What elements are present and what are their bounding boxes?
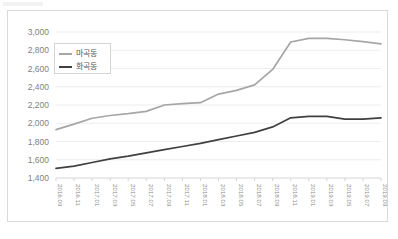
x-tick-label: 2018.11 xyxy=(292,184,299,206)
y-tick-label: 2,600 xyxy=(28,64,50,74)
x-tick-label: 2018.05 xyxy=(238,184,245,207)
y-tick-label: 2,800 xyxy=(28,45,50,55)
legend-label-hwagok: 화곡동 xyxy=(76,62,97,72)
chart-legend: 마곡동 화곡동 xyxy=(54,43,111,74)
legend-item-hwagok: 화곡동 xyxy=(59,61,107,72)
x-tick-label: 2019.01 xyxy=(310,184,317,207)
x-tick-label: 2018.01 xyxy=(202,184,209,207)
x-tick-label: 2016.09 xyxy=(57,184,64,207)
series-line xyxy=(56,116,381,168)
x-tick-label: 2019.09 xyxy=(382,184,389,207)
x-tick-label: 2017.11 xyxy=(184,184,191,206)
line-chart: 3,0002,8002,6002,4002,2002,0001,8001,600… xyxy=(0,0,398,239)
x-tick-label: 2016.11 xyxy=(75,184,82,206)
y-tick-label: 1,800 xyxy=(28,137,50,147)
x-tick-label: 2017.07 xyxy=(148,184,155,207)
chart-plot-area: 3,0002,8002,6002,4002,2002,0001,8001,600… xyxy=(0,0,398,239)
y-tick-label: 3,000 xyxy=(28,27,50,37)
x-tick-label: 2017.05 xyxy=(130,184,137,207)
x-tick-label: 2019.03 xyxy=(328,184,335,207)
x-tick-label: 2017.01 xyxy=(94,184,101,207)
y-tick-label: 1,600 xyxy=(28,155,50,165)
legend-swatch-magok xyxy=(59,53,72,55)
legend-item-magok: 마곡동 xyxy=(59,48,107,59)
x-tick-label: 2018.07 xyxy=(256,184,263,207)
y-tick-label: 2,400 xyxy=(28,82,50,92)
y-axis-tick-labels: 3,0002,8002,6002,4002,2002,0001,8001,600… xyxy=(28,27,50,183)
y-tick-label: 1,400 xyxy=(28,173,50,183)
legend-swatch-hwagok xyxy=(59,66,72,68)
x-tick-label: 2018.03 xyxy=(220,184,227,207)
y-tick-label: 2,000 xyxy=(28,118,50,128)
legend-label-magok: 마곡동 xyxy=(76,49,97,59)
x-axis-tick-labels: 2016.092016.112017.012017.032017.052017.… xyxy=(57,184,389,207)
x-tick-label: 2019.05 xyxy=(346,184,353,207)
x-tick-label: 2018.09 xyxy=(274,184,281,207)
x-tick-label: 2017.09 xyxy=(166,184,173,207)
x-tick-label: 2019.07 xyxy=(364,184,371,207)
y-tick-label: 2,200 xyxy=(28,100,50,110)
x-tick-label: 2017.03 xyxy=(112,184,119,207)
